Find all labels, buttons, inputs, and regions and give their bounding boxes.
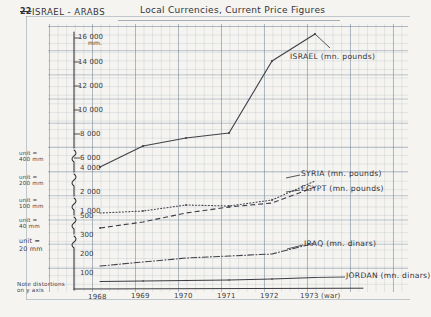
y-unit-suffix: mm. — [88, 39, 103, 46]
y-tick-label-2000: 2 000 — [80, 188, 101, 196]
y-tick-label-16000: 16 000 mm. — [78, 33, 103, 46]
unit-label-line1: unit = — [19, 217, 38, 223]
unit-annotation-200mm: unit = 200 mm — [19, 174, 44, 186]
series-label-syria: SYRIA (mn. pounds) — [301, 169, 382, 178]
axis-distortion-note: Note distortions on y axis — [17, 281, 65, 294]
unit-label-line2: 400 mm — [19, 156, 44, 162]
axis-note-line1: Note distortions — [17, 281, 65, 287]
y-tick-label-6000: 6 000 — [80, 154, 101, 162]
y-tick-label-10000: 10 000 — [78, 106, 103, 114]
y-tick-label-500: 500 — [80, 212, 94, 220]
unit-label-line1: unit = — [19, 197, 38, 203]
unit-annotation-40mm: unit = 40 mm — [19, 217, 40, 229]
unit-label-line2: 200 mm — [19, 180, 44, 186]
series-label-jordan: JORDAN (mn. dinars) — [346, 271, 431, 280]
unit-label-line1: unit = — [19, 174, 38, 180]
chart-plot-area — [0, 0, 431, 317]
y-axis-spine — [72, 32, 76, 290]
axis-note-line2: on y axis — [17, 287, 44, 293]
y-tick-label-300: 300 — [80, 231, 94, 239]
series-line-jordan — [100, 278, 315, 282]
unit-label-line1: unit = — [19, 150, 38, 156]
series-line-syria — [100, 181, 315, 213]
x-tick-label-1973: 1973 (war) — [300, 292, 340, 300]
x-axis-spine — [74, 288, 363, 289]
y-tick-label-8000: 8 000 — [80, 130, 101, 138]
y-axis-ticks — [74, 38, 80, 158]
series-label-egypt: EGYPT (mn. pounds) — [301, 184, 384, 193]
series-line-iraq — [100, 243, 315, 266]
unit-annotation-20mm: unit = 20 mm — [19, 238, 43, 253]
unit-annotation-100mm: unit = 100 mm — [19, 197, 44, 209]
y-tick-label-200: 200 — [80, 250, 94, 258]
series-label-iraq: IRAQ (mn. dinars) — [304, 239, 376, 248]
series-line-israel — [100, 34, 315, 167]
unit-label-line2: 40 mm — [19, 223, 40, 229]
y-tick-label-4000: 4 000 — [80, 164, 101, 172]
y-tick-label-14000: 14 000 — [78, 58, 103, 66]
unit-annotation-400mm: unit = 400 mm — [19, 150, 44, 162]
x-tick-label-1969: 1969 — [131, 292, 150, 300]
x-tick-label-1972: 1972 — [260, 292, 279, 300]
series-line-egypt — [100, 187, 315, 228]
series-label-israel: ISRAEL (mn. pounds) — [290, 52, 375, 61]
unit-label-line2: 100 mm — [19, 203, 44, 209]
y-tick-label-12000: 12 000 — [78, 82, 103, 90]
x-tick-label-1971: 1971 — [217, 292, 236, 300]
y-tick-label-100: 100 — [80, 269, 94, 277]
x-tick-label-1970: 1970 — [174, 292, 193, 300]
unit-label-line2: 20 mm — [19, 245, 43, 253]
series-points-syria — [142, 199, 273, 212]
x-tick-label-1968: 1968 — [88, 293, 107, 301]
